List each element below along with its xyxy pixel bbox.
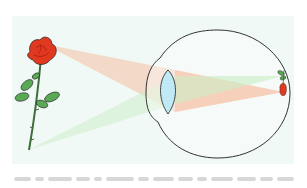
- caption-word-blurred: [178, 177, 193, 181]
- caption-word-blurred: [138, 177, 149, 181]
- caption-word-blurred: [237, 177, 256, 181]
- caption-word-blurred: [14, 177, 31, 181]
- caption-word-blurred: [277, 177, 294, 181]
- caption-illegible: [14, 176, 294, 182]
- caption-word-blurred: [197, 177, 207, 181]
- caption-word-blurred: [260, 177, 273, 181]
- eye-image-formation-diagram: [0, 0, 307, 188]
- caption-word-blurred: [48, 177, 72, 181]
- caption-word-blurred: [106, 177, 134, 181]
- caption-word-blurred: [76, 177, 89, 181]
- retina-bloom: [280, 83, 287, 95]
- caption-word-blurred: [35, 177, 44, 181]
- caption-word-blurred: [94, 177, 102, 181]
- caption-word-blurred: [153, 177, 174, 181]
- caption-word-blurred: [211, 177, 233, 181]
